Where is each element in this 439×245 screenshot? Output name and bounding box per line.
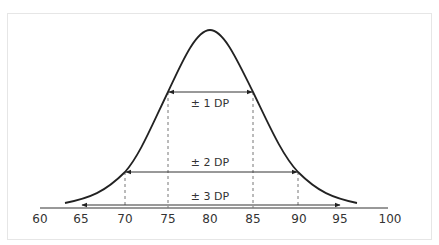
tick-60: 60 xyxy=(32,212,47,226)
sd3-label: ± 3 DP xyxy=(191,190,230,203)
tick-70: 70 xyxy=(117,212,132,226)
normal-distribution-chart: ± 1 DP ± 2 DP ± 3 DP 60 65 70 75 80 85 9… xyxy=(0,0,439,245)
sd2-label: ± 2 DP xyxy=(191,156,230,169)
tick-100: 100 xyxy=(379,212,402,226)
tick-65: 65 xyxy=(73,212,88,226)
sd1-label: ± 1 DP xyxy=(191,97,230,110)
tick-85: 85 xyxy=(245,212,260,226)
tick-75: 75 xyxy=(160,212,175,226)
tick-95: 95 xyxy=(332,212,347,226)
tick-90: 90 xyxy=(291,212,306,226)
tick-80: 80 xyxy=(202,212,217,226)
bell-curve xyxy=(65,30,357,203)
x-tick-labels: 60 65 70 75 80 85 90 95 100 xyxy=(32,212,401,226)
